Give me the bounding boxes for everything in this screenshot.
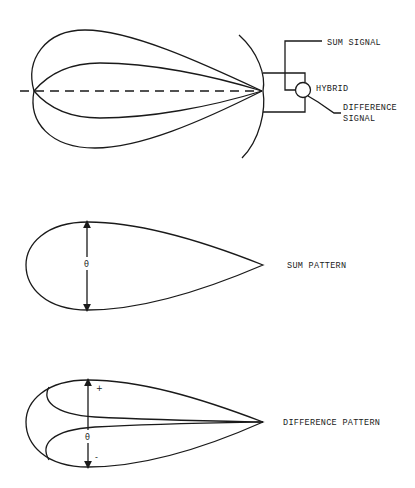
sum-signal-label: SUM SIGNAL	[327, 38, 381, 48]
lower-beam-outer	[33, 91, 262, 148]
diff-theta-symbol: θ	[85, 433, 90, 442]
sum-pattern-diagram: θ SUM PATTERN	[26, 222, 346, 310]
upper-beam-inner	[34, 63, 262, 91]
theta-symbol: θ	[84, 260, 89, 269]
sum-pattern-lobe	[26, 222, 263, 310]
feed-upper-line	[263, 73, 305, 82]
difference-pattern-label: DIFFERENCE PATTERN	[283, 418, 380, 428]
difference-signal-label-line2: SIGNAL	[343, 114, 375, 124]
lower-beam-inner	[34, 91, 262, 118]
antenna-beams-diagram: SUM SIGNAL HYBRID DIFFERENCE SIGNAL	[20, 30, 397, 158]
monopulse-diagram: SUM SIGNAL HYBRID DIFFERENCE SIGNAL θ SU…	[0, 0, 415, 488]
minus-symbol: -	[95, 453, 98, 462]
difference-signal-line	[308, 96, 341, 113]
difference-pattern-diagram: θ + - DIFFERENCE PATTERN	[26, 380, 380, 467]
hybrid-junction	[296, 83, 311, 98]
sum-pattern-label: SUM PATTERN	[287, 261, 346, 271]
plus-symbol: +	[96, 384, 103, 393]
hybrid-label: HYBRID	[316, 84, 348, 94]
difference-signal-label-line1: DIFFERENCE	[343, 103, 397, 113]
difference-lower-lobe	[46, 422, 263, 460]
difference-upper-lobe	[47, 387, 263, 422]
feed-lower-line	[263, 97, 305, 112]
difference-pattern-envelope	[26, 380, 263, 467]
